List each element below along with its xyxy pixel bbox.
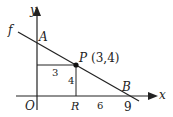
x-axis-label: x (159, 88, 166, 102)
point-R-label: R (70, 100, 79, 113)
point-A-label: A (38, 30, 48, 44)
point-P-label: P (78, 51, 88, 65)
length-3-label: 3 (52, 67, 58, 78)
x-axis-arrow-icon (148, 92, 158, 100)
y-axis-label: y (29, 3, 37, 17)
length-6-label: 6 (97, 100, 103, 111)
point-P-coords: (3,4) (91, 51, 119, 65)
origin-label: O (25, 99, 35, 113)
length-4-label: 4 (68, 75, 74, 86)
point-B-label: B (121, 80, 131, 94)
line-f (18, 32, 139, 101)
tick-9-label: 9 (124, 100, 132, 114)
line-f-label: f (7, 23, 15, 37)
coordinate-diagram: y x O f A P (3,4) R B 3 4 6 9 (0, 0, 173, 117)
point-P (73, 62, 78, 67)
